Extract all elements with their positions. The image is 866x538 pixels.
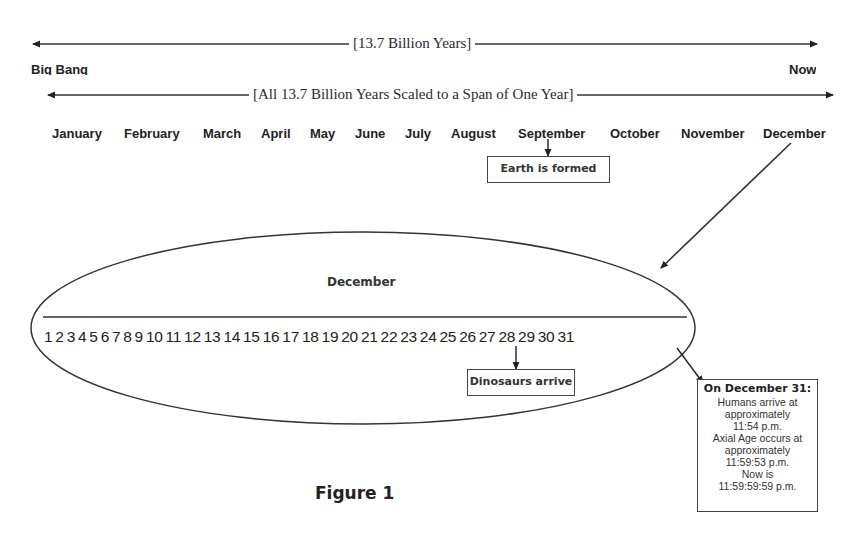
month-may: May [310, 126, 335, 142]
december-days: 1 2 3 4 5 6 7 8 9 10 11 12 13 14 15 16 1… [44, 328, 574, 346]
month-january: January [52, 126, 102, 142]
december-zoom-arrow [661, 143, 791, 268]
dec31-line: approximately [700, 444, 815, 456]
dec31-line: Humans arrive at [700, 396, 815, 408]
dec31-line: Axial Age occurs at [700, 432, 815, 444]
earth-formed-callout: Earth is formed [487, 156, 610, 183]
dec31-line: Now is [700, 468, 815, 480]
dec31-line: approximately [700, 408, 815, 420]
month-august: August [451, 126, 496, 142]
month-july: July [405, 126, 431, 142]
dec31-line: 11:54 p.m. [700, 420, 815, 432]
month-april: April [261, 126, 291, 142]
dec31-line: 11:59:53 p.m. [700, 456, 815, 468]
month-june: June [355, 126, 385, 142]
now-label: Now [789, 63, 816, 77]
billion-years-label: [13.7 Billion Years] [349, 34, 475, 52]
dinosaurs-callout: Dinosaurs arrive [467, 369, 575, 396]
big-bang-label: Big Bang [31, 63, 88, 75]
december-title: December [327, 275, 396, 289]
month-october: October [610, 126, 660, 142]
month-september: September [518, 126, 585, 142]
month-march: March [203, 126, 241, 142]
month-december: December [763, 126, 826, 142]
dec31-heading: On December 31: [700, 383, 815, 395]
month-november: November [681, 126, 745, 142]
dec31-pointer-arrow [677, 348, 703, 383]
scaled-year-label: [All 13.7 Billion Years Scaled to a Span… [249, 85, 577, 103]
dec31-line: 11:59:59:59 p.m. [700, 480, 815, 492]
month-february: February [124, 126, 180, 142]
dec31-info-box: On December 31: Humans arrive at approxi… [697, 379, 818, 512]
figure-caption: Figure 1 [315, 483, 394, 503]
